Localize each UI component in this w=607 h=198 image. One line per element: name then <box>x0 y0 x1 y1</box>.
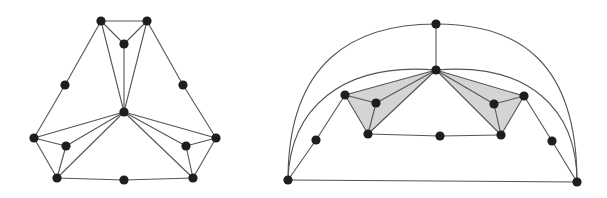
graph-node <box>181 141 190 150</box>
graph-node <box>311 135 320 144</box>
graph-node <box>489 99 498 108</box>
graph-edge <box>124 178 193 180</box>
graph-node <box>431 65 440 74</box>
graph-node <box>119 107 128 116</box>
figure-canvas <box>0 0 607 198</box>
graph-node <box>431 19 440 28</box>
graph-edge <box>147 21 183 85</box>
graph-edge <box>65 21 101 85</box>
graph-node <box>363 129 372 138</box>
graph-node <box>29 133 38 142</box>
graph-edge <box>101 21 124 112</box>
graph-edge <box>288 140 316 180</box>
left-graph <box>29 16 220 184</box>
graph-node <box>340 90 349 99</box>
graph-edge <box>440 135 501 136</box>
graph-edge <box>57 178 124 180</box>
graph-node <box>119 175 128 184</box>
graph-node <box>96 16 105 25</box>
graph-node <box>178 80 187 89</box>
graph-node <box>60 80 69 89</box>
right-graph <box>283 19 581 186</box>
graph-edge <box>288 180 577 182</box>
graph-diagram <box>0 0 607 198</box>
graph-edge <box>193 138 216 178</box>
graph-node <box>519 91 528 100</box>
graph-node <box>52 173 61 182</box>
graph-node <box>371 98 380 107</box>
shaded-face <box>345 70 436 134</box>
graph-node <box>547 136 556 145</box>
graph-node <box>435 131 444 140</box>
graph-edge <box>524 96 552 141</box>
graph-edge <box>34 138 57 178</box>
arc-edge <box>288 24 577 182</box>
graph-node <box>61 141 70 150</box>
graph-edge <box>124 21 147 112</box>
graph-node <box>119 39 128 48</box>
shaded-face <box>436 70 524 135</box>
graph-node <box>283 175 292 184</box>
graph-edge <box>34 138 66 146</box>
graph-edge <box>368 134 440 136</box>
graph-edge <box>186 146 193 178</box>
graph-node <box>188 173 197 182</box>
graph-node <box>211 133 220 142</box>
graph-node <box>142 16 151 25</box>
graph-node <box>496 130 505 139</box>
graph-node <box>572 177 581 186</box>
